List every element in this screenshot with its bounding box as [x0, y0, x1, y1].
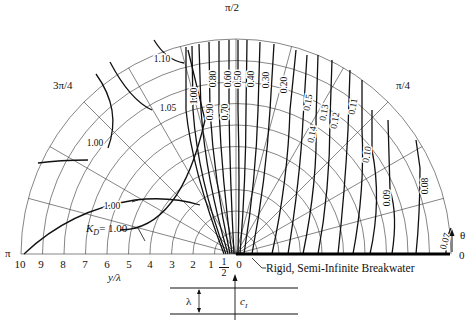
kd-contour-line: [318, 60, 332, 254]
radial-tick-label: 3: [169, 259, 175, 270]
contour-label: 1.00: [189, 87, 199, 104]
wave-direction-arrow-icon: [233, 274, 238, 281]
radial-tick-label: 4: [147, 259, 153, 270]
contour-label: 1.00: [87, 138, 104, 148]
contour-label: 1.05: [160, 103, 177, 113]
kd-contour-line: [416, 140, 420, 254]
radial-tick-label: 2: [190, 259, 196, 270]
kd-contour-line: [110, 62, 152, 110]
kd-contour-line: [388, 120, 395, 254]
kd-label: KD= 1.00: [86, 223, 127, 238]
contour-label: 0.12: [329, 111, 342, 129]
wavelength-arrow-down-icon: [197, 308, 201, 313]
angle-label-pi: π: [5, 248, 11, 259]
x-axis-label: y/λ: [108, 272, 121, 283]
angle-label-pi-quarter: π/4: [396, 80, 410, 91]
angle-label-zero: 0: [459, 250, 465, 261]
crest-label: cI: [240, 296, 247, 312]
kd-value: = 1.00: [99, 222, 127, 234]
breakwater-leader: [252, 258, 266, 268]
contour-label: 0.10: [361, 145, 374, 163]
radial-tick-label: 10: [15, 259, 26, 270]
grid-radial: [236, 102, 388, 254]
contour-label: 1.00: [104, 201, 121, 211]
wavelength-arrow-up-icon: [197, 289, 201, 294]
grid-radial: [236, 68, 344, 254]
radial-tick-label: 7: [82, 259, 88, 270]
breakwater-label: Rigid, Semi-Infinite Breakwater: [266, 263, 415, 274]
theta-label: θ: [460, 230, 465, 241]
contour-label: 0.08: [420, 177, 430, 194]
contour-label: 0.20: [279, 76, 289, 93]
radial-tick-label: 5: [126, 259, 132, 270]
diffraction-polar-chart: 1.101.101.051.051.001.001.001.001.001.00…: [0, 0, 471, 326]
contour-label: 0.50: [233, 70, 243, 87]
kd-leader: [132, 228, 145, 241]
contour-label: 0.09: [382, 189, 392, 206]
crest-subscript: I: [245, 302, 247, 310]
kd-contour-line: [370, 110, 377, 254]
radial-tick-label: 8: [60, 259, 66, 270]
contour-label: 0.15: [302, 93, 315, 111]
contour-label: 0.70: [220, 103, 230, 120]
wavelength-label: λ: [186, 296, 191, 307]
contour-label: 0.80: [208, 70, 218, 87]
angle-label-pi-half: π/2: [225, 2, 239, 13]
contour-label: 0.90: [205, 103, 215, 120]
contour-label: 0.30: [261, 71, 271, 88]
radial-tick-label: 9: [38, 259, 44, 270]
contour-label: 1.10: [154, 54, 171, 64]
contour-label: 0.11: [347, 97, 360, 115]
kd-contour-line: [288, 55, 307, 254]
contour-label: 0.13: [318, 103, 331, 121]
angle-label-3pi-quarter: 3π/4: [53, 80, 73, 91]
radial-tick-label: 0: [236, 259, 242, 270]
contour-label: 0.40: [246, 70, 256, 87]
kd-contour-line: [38, 160, 88, 163]
radial-tick-label: 6: [104, 259, 110, 270]
half-tick-label: 1 2: [219, 257, 229, 278]
contour-label: 0.60: [223, 70, 233, 87]
half-denominator: 2: [219, 268, 229, 278]
radial-tick-label: 1: [208, 259, 214, 270]
grid-radial: [236, 198, 444, 254]
